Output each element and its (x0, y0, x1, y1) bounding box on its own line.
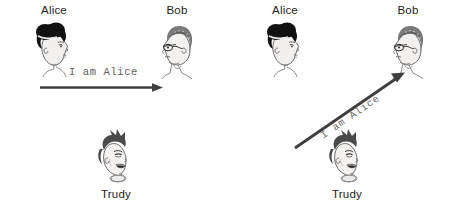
figure-canvas: Alice (0, 0, 463, 216)
actor-trudy: Trudy (85, 126, 147, 201)
alice-head-icon (254, 17, 316, 79)
actor-trudy-label: Trudy (316, 188, 378, 201)
trudy-head-icon (316, 126, 378, 188)
actor-trudy-label: Trudy (85, 188, 147, 201)
actor-bob-label: Bob (146, 4, 208, 17)
bob-head-icon (146, 17, 208, 79)
message-label-alice-to-bob: I am Alice (69, 66, 138, 78)
actor-alice-label: Alice (254, 4, 316, 17)
trudy-head-icon (85, 126, 147, 188)
actor-alice: Alice (254, 4, 316, 79)
panel-impersonation-attack: Alice (231, 0, 463, 216)
panel-legitimate-authentication: Alice (0, 0, 232, 216)
actor-bob-label: Bob (377, 4, 439, 17)
actor-alice-label: Alice (23, 4, 85, 17)
actor-bob: Bob (377, 4, 439, 79)
actor-trudy: Trudy (316, 126, 378, 201)
bob-head-icon (377, 17, 439, 79)
actor-bob: Bob (146, 4, 208, 79)
